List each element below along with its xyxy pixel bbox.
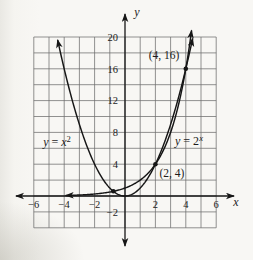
x-tick-label: −4 [59, 199, 71, 210]
intersection-point [153, 162, 158, 167]
curve-label-x-squared-run: = [48, 135, 61, 149]
point-label-2-4-run: (2, 4) [160, 167, 185, 180]
x-tick-label: 2 [153, 199, 158, 210]
y-tick-label: 20 [108, 32, 119, 43]
y-tick-label: 8 [113, 127, 118, 138]
graph-figure: −6−4−224620161284−2xy(4, 16)(2, 4)y = x2… [0, 0, 253, 260]
y-tick-label: −2 [107, 207, 118, 218]
x-tick-label: 4 [183, 199, 189, 210]
y-tick-label: 16 [108, 64, 119, 75]
graph-canvas: −6−4−224620161284−2xy(4, 16)(2, 4)y = x2… [0, 0, 253, 260]
curve-label-x-squared-run: 2 [67, 134, 71, 144]
x-axis-label: x [232, 195, 239, 209]
intersection-point [111, 189, 116, 194]
x-tick-label: 6 [214, 199, 219, 210]
curve-label-2-to-x: y = 2x [174, 133, 203, 148]
point-label-4-16-run: (4, 16) [149, 49, 180, 62]
x-tick-label: −2 [89, 199, 100, 210]
point-label-2-4: (2, 4) [160, 167, 185, 180]
x-tick-label: −6 [28, 199, 39, 210]
curve-label-x-squared: y = x2 [42, 134, 71, 149]
y-tick-label: 4 [113, 159, 119, 170]
curve-label-2-to-x-run: = 2 [180, 134, 199, 148]
y-axis-label: y [133, 5, 140, 19]
y-tick-label: 12 [108, 95, 119, 106]
curve-label-2-to-x-run: x [198, 133, 203, 143]
intersection-point [184, 67, 189, 72]
point-label-4-16: (4, 16) [149, 49, 180, 62]
